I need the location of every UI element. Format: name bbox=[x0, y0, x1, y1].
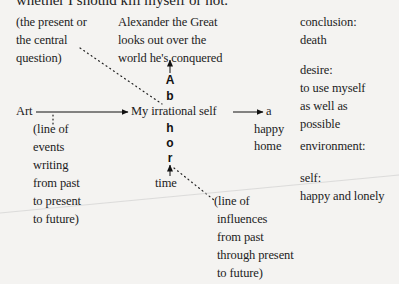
environment-label: environment: bbox=[300, 138, 365, 155]
irrational-self-node: My irrational self bbox=[131, 103, 217, 120]
desire-value-line-1: to use myself bbox=[300, 80, 365, 97]
happy-home-line-1: a bbox=[266, 103, 271, 120]
vertical-letter-b: b bbox=[163, 89, 177, 103]
vertical-letter-o: o bbox=[163, 136, 177, 150]
events-note-line-1: (line of bbox=[33, 121, 69, 138]
vertical-letter-A: A bbox=[163, 73, 177, 87]
desire-value-line-2: as well as bbox=[300, 98, 348, 115]
happy-home-line-3: home bbox=[254, 138, 281, 155]
alexander-note-line-1: Alexander the Great bbox=[118, 14, 217, 31]
desire-value-line-3: possible bbox=[300, 116, 340, 133]
conclusion-label: conclusion: bbox=[300, 14, 357, 31]
events-note-line-3: writing bbox=[33, 157, 68, 174]
alexander-note-line-2: looks out over the bbox=[118, 32, 206, 49]
influences-dotted-leader bbox=[174, 168, 214, 200]
happy-home-line-2: happy bbox=[254, 121, 284, 138]
present-question-note-line-1: (the present or bbox=[16, 14, 87, 31]
book-page: whether I should kill myself or not. (th… bbox=[0, 0, 399, 284]
present-question-note-line-3: question) bbox=[16, 50, 62, 67]
events-note-line-4: from past bbox=[33, 175, 80, 192]
influences-note-line-5: to future) bbox=[217, 265, 263, 282]
influences-note-line-1: (line of bbox=[214, 193, 250, 210]
art-node: Art bbox=[16, 103, 32, 120]
events-note-line-2: events bbox=[33, 139, 64, 156]
influences-note-line-2: influences bbox=[217, 211, 267, 228]
events-note-line-5: to present bbox=[33, 193, 81, 210]
conclusion-value: death bbox=[300, 32, 327, 49]
influences-note-line-4: through present bbox=[217, 247, 294, 264]
cut-off-heading: whether I should kill myself or not. bbox=[16, 0, 228, 9]
self-label: self: bbox=[300, 170, 321, 187]
alexander-note-line-3: world he's conquered bbox=[118, 50, 222, 67]
vertical-letter-h: h bbox=[163, 121, 177, 135]
time-node: time bbox=[155, 175, 177, 192]
desire-label: desire: bbox=[300, 62, 333, 79]
events-note-line-6: to future) bbox=[33, 211, 79, 228]
vertical-letter-r: r bbox=[163, 151, 177, 165]
influences-note-line-3: from past bbox=[217, 229, 264, 246]
present-question-note-line-2: the central bbox=[16, 32, 67, 49]
self-value: happy and lonely bbox=[300, 188, 385, 205]
